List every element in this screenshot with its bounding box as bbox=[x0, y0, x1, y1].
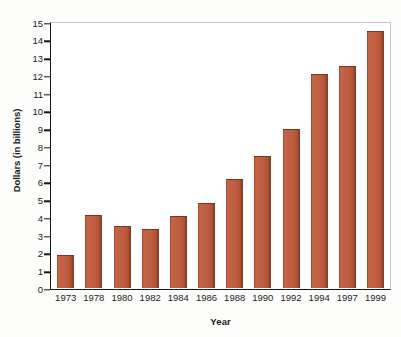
bar bbox=[170, 216, 187, 288]
x-axis-tick-label: 1990 bbox=[249, 293, 277, 303]
x-axis-tick-label: 1999 bbox=[361, 293, 389, 303]
bar bbox=[339, 66, 356, 288]
bar bbox=[283, 129, 300, 289]
y-axis-tick-labels: 0123456789101112131415 bbox=[26, 22, 43, 290]
bar-slot bbox=[311, 22, 328, 288]
bar-slot bbox=[142, 22, 159, 288]
x-axis-tick-label: 1982 bbox=[136, 293, 164, 303]
y-axis-tick-label: 13 bbox=[32, 54, 43, 64]
x-axis-tick-label: 1973 bbox=[52, 293, 80, 303]
y-axis-tick-label: 14 bbox=[32, 37, 43, 47]
bar bbox=[142, 229, 159, 288]
bar-slot bbox=[283, 22, 300, 288]
bar-slot bbox=[254, 22, 271, 288]
bar-slot bbox=[85, 22, 102, 288]
y-axis-tick-label: 15 bbox=[32, 19, 43, 29]
bar-slot bbox=[367, 22, 384, 288]
x-axis-tick-label: 1980 bbox=[108, 293, 136, 303]
bars-container bbox=[52, 22, 390, 288]
bar bbox=[311, 74, 328, 289]
bar-slot bbox=[170, 22, 187, 288]
x-axis-tick-label: 1978 bbox=[80, 293, 108, 303]
x-axis-tick-label: 1988 bbox=[221, 293, 249, 303]
y-axis-title: Dollars (in billions) bbox=[9, 0, 25, 300]
y-axis-tick-label: 12 bbox=[32, 72, 43, 82]
x-axis-tick-label: 1992 bbox=[277, 293, 305, 303]
bar bbox=[57, 255, 74, 289]
x-axis-title: Year bbox=[52, 316, 390, 327]
y-axis-title-text: Dollars (in billions) bbox=[12, 108, 23, 191]
bar bbox=[226, 179, 243, 288]
y-axis-tick-label: 10 bbox=[32, 108, 43, 118]
bar-chart: Dollars (in billions) 012345678910111213… bbox=[0, 0, 401, 337]
bar-slot bbox=[339, 22, 356, 288]
x-axis-tick-label: 1994 bbox=[305, 293, 333, 303]
bar bbox=[254, 156, 271, 288]
bar bbox=[114, 226, 131, 288]
bar-slot bbox=[198, 22, 215, 288]
x-axis-tick-label: 1986 bbox=[192, 293, 220, 303]
y-axis-tick-marks bbox=[43, 22, 50, 290]
bar-slot bbox=[114, 22, 131, 288]
x-axis-tick-labels: 1973197819801982198419861988199019921994… bbox=[52, 293, 390, 307]
bar bbox=[198, 203, 215, 288]
bar bbox=[367, 31, 384, 289]
bar-slot bbox=[57, 22, 74, 288]
x-axis-tick-label: 1997 bbox=[333, 293, 361, 303]
bar-slot bbox=[226, 22, 243, 288]
y-axis-tick-label: 11 bbox=[33, 90, 43, 100]
bar bbox=[85, 215, 102, 289]
x-axis-tick-label: 1984 bbox=[164, 293, 192, 303]
